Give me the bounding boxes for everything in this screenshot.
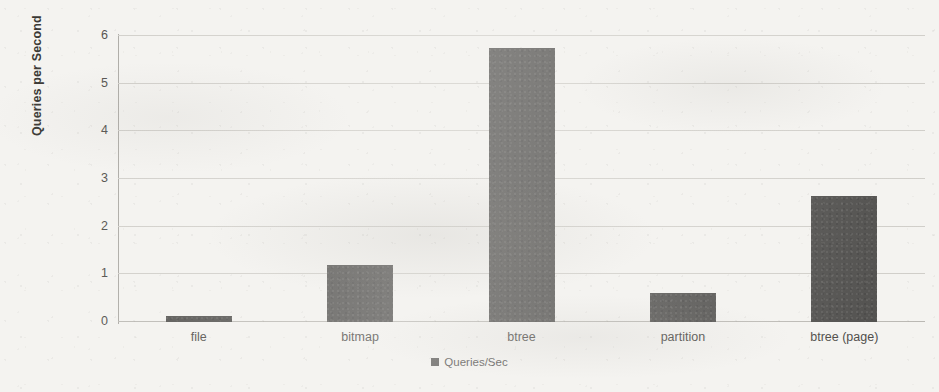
- x-tick-label-partition: partition: [661, 330, 705, 344]
- bar-btree-page-: [811, 196, 877, 322]
- y-axis-title: Queries per Second: [30, 0, 50, 136]
- grid-line-6: [118, 35, 925, 36]
- y-axis-tick-labels: 0123456: [76, 36, 108, 322]
- bar-partition: [650, 293, 716, 322]
- y-tick-label-1: 1: [78, 266, 108, 280]
- chart-legend: Queries/Sec: [0, 356, 939, 368]
- bar-file: [166, 316, 232, 322]
- legend-label-queries-sec: Queries/Sec: [444, 356, 507, 368]
- y-tick-label-5: 5: [78, 76, 108, 90]
- x-tick-label-bitmap: bitmap: [341, 330, 379, 344]
- y-tick-label-3: 3: [78, 171, 108, 185]
- x-tick-label-btree-page-: btree (page): [810, 330, 878, 344]
- bar-btree: [489, 48, 555, 322]
- x-tick-label-file: file: [191, 330, 207, 344]
- y-tick-label-4: 4: [78, 123, 108, 137]
- y-tick-label-6: 6: [78, 28, 108, 42]
- bar-bitmap: [327, 265, 393, 322]
- plot-area: [118, 36, 925, 322]
- y-tick-label-0: 0: [78, 314, 108, 328]
- legend-swatch-queries-sec: [431, 358, 439, 366]
- x-axis-tick-labels: filebitmapbtreepartitionbtree (page): [118, 330, 925, 350]
- y-tick-label-2: 2: [78, 219, 108, 233]
- x-tick-label-btree: btree: [507, 330, 536, 344]
- bar-chart-figure: Queries per Second 0123456 filebitmapbtr…: [0, 0, 939, 392]
